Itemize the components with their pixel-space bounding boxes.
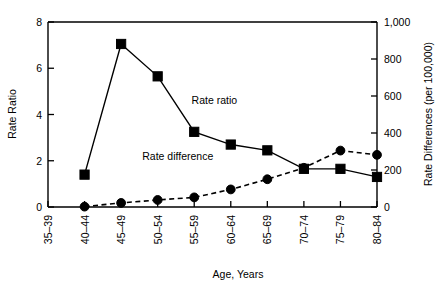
data-point-marker [336,146,345,155]
data-point-marker [226,185,235,194]
x-tick-label: 55–59 [188,215,200,244]
chart-svg: 02468 02004006008001,000 35–3940–4445–49… [0,0,446,283]
left-tick-label: 2 [36,155,42,167]
left-tick-label: 6 [36,62,42,74]
data-point-marker [80,170,89,179]
series-layer [80,39,382,211]
x-tick-label: 50–54 [152,215,164,244]
data-point-marker [372,172,381,181]
right-tick-label: 1,000 [384,16,410,28]
data-point-marker [117,39,126,48]
right-tick-label: 600 [384,90,402,102]
series-line-rate-ratio [85,44,377,177]
x-tick-label: 60–64 [225,215,237,244]
x-tick-label: 65–69 [261,215,273,244]
right-tick-label: 400 [384,127,402,139]
data-point-marker [263,146,272,155]
data-point-marker [190,127,199,136]
right-tick-label: 800 [384,53,402,65]
annotation-rate-difference: Rate difference [142,150,213,162]
y-axis-title: Rate Ratio [6,89,18,139]
data-point-marker [153,72,162,81]
x-tick-label: 75–79 [334,215,346,244]
y2-axis-title: Rate Differences (per 100,000) [422,42,434,186]
x-tick-label: 80–84 [371,215,383,244]
left-tick-label: 4 [36,109,42,121]
data-point-marker [263,175,272,184]
plot-frame [48,22,377,207]
data-point-marker [153,196,162,205]
left-axis-ticks: 02468 [36,16,54,213]
chart-figure: 02468 02004006008001,000 35–3940–4445–49… [0,0,446,283]
data-point-marker [80,202,89,211]
data-point-marker [299,163,308,172]
annotation-rate-ratio: Rate ratio [192,94,238,106]
x-tick-label: 35–39 [42,215,54,244]
left-tick-label: 0 [36,201,42,213]
x-tick-label: 70–74 [298,215,310,244]
x-tick-label: 40–44 [79,215,91,244]
right-tick-label: 0 [384,201,390,213]
x-axis-title: Age, Years [213,268,264,280]
right-tick-label: 200 [384,164,402,176]
data-point-marker [373,150,382,159]
left-tick-label: 8 [36,16,42,28]
data-point-marker [117,199,126,208]
data-point-marker [190,193,199,202]
series-line-rate-difference [85,151,377,207]
data-point-marker [226,140,235,149]
x-tick-label: 45–49 [115,215,127,244]
data-point-marker [336,164,345,173]
